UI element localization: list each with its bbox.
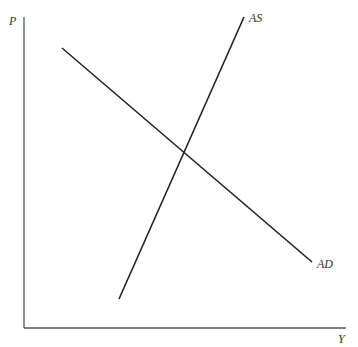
ad-curve xyxy=(62,48,312,262)
x-axis-label: Y xyxy=(338,332,346,346)
y-axis-label: P xyxy=(8,14,17,28)
as-label: AS xyxy=(248,11,262,25)
ad-label: AD xyxy=(316,257,333,271)
as-ad-diagram: P Y AD AS xyxy=(0,0,358,347)
as-curve xyxy=(119,17,244,299)
